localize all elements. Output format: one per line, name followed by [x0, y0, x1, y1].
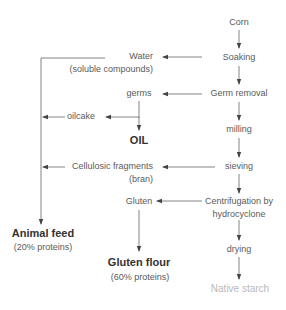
byproduct-germs: germs — [126, 88, 151, 99]
byproduct-cellulosic-line1: Cellulosic fragments — [72, 161, 153, 172]
byproduct-oilcake: oilcake — [67, 111, 95, 122]
step-centrifugation-line1: Centrifugation by — [205, 196, 273, 207]
product-animal-feed-note: (20% proteins) — [14, 242, 73, 253]
step-sieving: sieving — [225, 161, 253, 172]
step-milling: milling — [226, 124, 252, 135]
product-animal-feed: Animal feed — [12, 227, 74, 240]
byproduct-gluten: Gluten — [126, 196, 153, 207]
step-corn: Corn — [229, 17, 249, 28]
product-oil: OIL — [130, 134, 148, 147]
byproduct-cellulosic-line2: (bran) — [72, 174, 153, 185]
byproduct-water: Water (soluble compounds) — [69, 51, 153, 75]
product-native-starch: Native starch — [211, 283, 269, 295]
step-centrifugation: Centrifugation by hydrocyclone — [205, 196, 273, 220]
step-drying: drying — [227, 244, 252, 255]
product-gluten-flour-note: (60% proteins) — [111, 272, 170, 283]
byproduct-water-line2: (soluble compounds) — [69, 64, 153, 75]
step-soaking: Soaking — [223, 52, 256, 63]
step-germ-removal: Germ removal — [210, 88, 267, 99]
step-centrifugation-line2: hydrocyclone — [205, 209, 273, 220]
byproduct-water-line1: Water — [69, 51, 153, 62]
byproduct-cellulosic: Cellulosic fragments (bran) — [72, 161, 153, 185]
product-gluten-flour: Gluten flour — [108, 256, 170, 269]
